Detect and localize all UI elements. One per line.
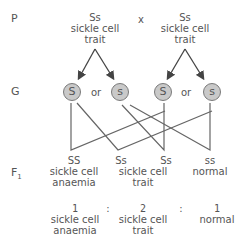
parent-2-phenotype-line2: trait — [161, 34, 210, 45]
ratio-normal: 1 normal — [199, 203, 234, 225]
offspring-SS-genotype: SS — [50, 155, 99, 166]
offspring-Ss-phenotype-line2: trait — [119, 177, 168, 188]
offspring-ss-phenotype-line1: normal — [192, 166, 227, 177]
parent-1-phenotype-line2: trait — [71, 34, 120, 45]
offspring-Ss-phenotype: sickle cell trait — [119, 166, 168, 188]
ratio-value-2: 2 — [119, 203, 168, 214]
cross-symbol: x — [138, 14, 144, 25]
parent-1: Ss sickle cell trait — [71, 12, 120, 45]
arrow-p1-to-S — [79, 49, 95, 78]
ratio-separator-2: : — [179, 203, 182, 214]
ratio-separator-1: : — [106, 203, 109, 214]
row-label-p: P — [11, 12, 18, 25]
parent-1-phenotype-line1: sickle cell — [71, 23, 120, 34]
gamete-s-parent-1: s — [111, 83, 129, 101]
offspring-SS-phenotype-line2: anaemia — [50, 177, 99, 188]
offspring-ss-genotype: ss — [192, 155, 227, 166]
ratio-label-1-line2: anaemia — [51, 225, 100, 236]
ratio-label-2-line1: sickle cell — [119, 214, 168, 225]
ratio-label-1-line1: sickle cell — [51, 214, 100, 225]
parent-1-genotype: Ss — [71, 12, 120, 23]
gamete-S-parent-2: S — [154, 83, 172, 101]
parent-2-phenotype-line1: sickle cell — [161, 23, 210, 34]
offspring-Ss-1-genotype: Ss — [115, 155, 127, 166]
ratio-sickle-cell-anaemia: 1 sickle cell anaemia — [51, 203, 100, 236]
offspring-ss: ss normal — [192, 155, 227, 177]
offspring-Ss-2-genotype: Ss — [160, 155, 172, 166]
ratio-value-3: 1 — [199, 203, 234, 214]
ratio-value-1: 1 — [51, 203, 100, 214]
arrow-p1-to-s — [95, 49, 113, 78]
offspring-Ss-phenotype-line1: sickle cell — [119, 166, 168, 177]
ratio-label-3-line1: normal — [199, 214, 234, 225]
row-label-f1: F1 — [11, 166, 22, 181]
offspring-SS-phenotype-line1: sickle cell — [50, 166, 99, 177]
gamete-or-1: or — [91, 87, 101, 98]
ratio-label-2-line2: trait — [119, 225, 168, 236]
row-label-g: G — [11, 85, 20, 98]
offspring-SS: SS sickle cell anaemia — [50, 155, 99, 188]
parent-2-genotype: Ss — [161, 12, 210, 23]
gamete-or-2: or — [181, 87, 191, 98]
parent-2: Ss sickle cell trait — [161, 12, 210, 45]
gamete-s-parent-2: s — [203, 83, 221, 101]
ratio-sickle-cell-trait: 2 sickle cell trait — [119, 203, 168, 236]
row-label-f-subscript: 1 — [17, 173, 21, 181]
arrow-p2-to-S — [168, 49, 185, 78]
gamete-S-parent-1: S — [63, 83, 81, 101]
arrow-p2-to-s — [185, 49, 203, 78]
